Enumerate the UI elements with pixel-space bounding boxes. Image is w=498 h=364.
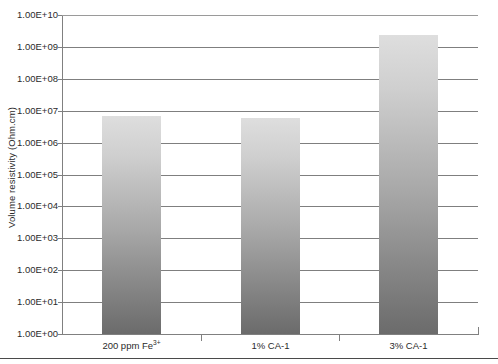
bar-200-ppm-fe3 (102, 116, 161, 334)
y-axis-tick-label: 1.00E+07 (14, 105, 58, 116)
y-axis-tick (58, 302, 62, 303)
y-axis-tick (58, 143, 62, 144)
volume-resistivity-bar-chart: Volume resistivity (Ohm.cm) 1.00E+101.00… (0, 0, 498, 364)
y-axis-tick (58, 238, 62, 239)
x-axis-category-label: 3% CA-1 (339, 340, 478, 351)
plot-area (62, 15, 478, 334)
y-axis-tick (58, 175, 62, 176)
y-axis-tick (58, 206, 62, 207)
y-axis-tick (58, 79, 62, 80)
x-axis-line (62, 334, 479, 335)
y-axis-tick-label: 1.00E+09 (14, 41, 58, 52)
y-axis-tick-label: 1.00E+08 (14, 73, 58, 84)
y-axis-tick-label: 1.00E+02 (14, 264, 58, 275)
gridline (62, 15, 478, 16)
y-axis-tick-label: 1.00E+05 (14, 169, 58, 180)
x-axis-category-label: 1% CA-1 (201, 340, 340, 351)
y-axis-tick-label: 1.00E+04 (14, 200, 58, 211)
y-axis-tick-label: 1.00E+03 (14, 232, 58, 243)
y-axis-tick-label: 1.00E+00 (14, 328, 58, 339)
bar-3-ca-1 (379, 35, 438, 334)
x-axis-category-label: 200 ppm Fe3+ (62, 340, 201, 351)
x-axis-end-tick (478, 327, 479, 335)
bar-1-ca-1 (241, 118, 300, 334)
y-axis-tick (58, 15, 62, 16)
y-axis-tick-label: 1.00E+01 (14, 296, 58, 307)
y-axis-tick (58, 270, 62, 271)
y-axis-tick (58, 47, 62, 48)
y-axis-tick-label: 1.00E+06 (14, 137, 58, 148)
y-axis-tick-label: 1.00E+10 (14, 9, 58, 20)
figure-bottom-rule (0, 358, 498, 359)
y-axis-tick (58, 111, 62, 112)
